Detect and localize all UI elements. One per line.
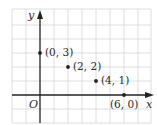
origin-label: O [29, 98, 38, 111]
coordinate-plane: y x O (0, 3) (2, 2) (4, 1) (6, 0) [0, 0, 157, 125]
point-label-6-0: (6, 0) [110, 98, 138, 110]
point-2-2 [66, 65, 70, 69]
y-axis-label: y [27, 9, 35, 22]
point-4-1 [94, 79, 98, 83]
point-label-4-1: (4, 1) [101, 74, 129, 86]
point-label-0-3: (0, 3) [45, 46, 73, 58]
point-0-3 [38, 51, 42, 55]
point-6-0 [122, 93, 126, 97]
x-axis-label: x [146, 98, 153, 111]
y-axis-arrow-icon [37, 10, 43, 19]
point-label-2-2: (2, 2) [73, 60, 101, 72]
